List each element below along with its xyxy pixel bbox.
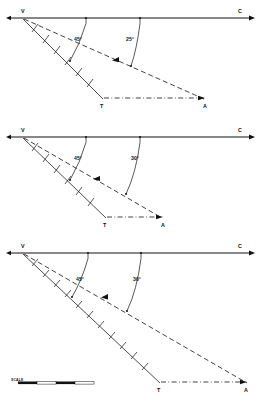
angle-arc-45-1 (70, 24, 86, 62)
dashdot-arrow-a-3 (240, 380, 247, 384)
angle-label-45-3: 45° (76, 276, 84, 282)
dashdot-arrow-a-1 (198, 96, 205, 100)
panel-3: 45° 30° V C T A (6, 243, 255, 393)
arc-endpoint-45-3 (71, 296, 73, 298)
point-label-a-3: A (244, 387, 248, 393)
point-label-c-2: C (238, 127, 242, 133)
baseline-arrow-left-2 (6, 135, 11, 139)
baseline-node-45-1 (85, 17, 87, 19)
dashdot-arrow-a-2 (156, 215, 163, 219)
arc-endpoint-30-3 (126, 310, 128, 312)
scale-label: SCALE (11, 378, 24, 382)
point-label-t-1: T (100, 103, 104, 109)
scale-segment-3 (56, 382, 75, 385)
baseline-node-30-3 (140, 252, 142, 254)
point-label-v-1: V (21, 8, 25, 14)
scale-segment-1 (18, 382, 37, 385)
scale-bar: SCALE (11, 378, 94, 384)
baseline-node-30-2 (139, 136, 141, 138)
point-label-a-1: A (203, 103, 207, 109)
baseline-arrow-right-2 (249, 135, 255, 140)
dashed-line-va-3 (24, 254, 247, 383)
angle-arc-25-1 (131, 24, 140, 67)
point-label-t-2: T (103, 222, 107, 228)
baseline-arrow-left-3 (6, 251, 11, 255)
angle-arc-45-2 (70, 143, 86, 181)
dashed-arrow-mid-1 (112, 57, 119, 62)
point-label-a-2: A (161, 222, 165, 228)
point-label-c-1: C (238, 8, 242, 14)
panel-2: 45° 30° V C T A (6, 127, 255, 228)
baseline-node-45-2 (85, 136, 87, 138)
angle-arc-30-2 (126, 143, 140, 195)
angle-label-25-1: 25° (126, 36, 134, 42)
point-label-c-3: C (238, 243, 242, 249)
solid-line-vt-3 (23, 254, 160, 383)
technical-diagram: 45° 25° V C T A 45° 30° (0, 0, 261, 401)
angle-label-45-2: 45° (74, 155, 82, 161)
baseline-node-25-1 (139, 17, 141, 19)
baseline-arrow-right-3 (249, 251, 255, 256)
dashed-line-va-1 (24, 19, 204, 99)
angle-arc-30-3 (127, 259, 141, 312)
point-label-v-3: V (21, 243, 25, 249)
dashed-line-va-2 (24, 138, 162, 218)
point-label-v-2: V (21, 127, 25, 133)
angle-label-30-2: 30° (131, 155, 139, 161)
angle-label-30-3: 30° (133, 276, 141, 282)
panel-1: 45° 25° V C T A (6, 8, 255, 109)
solid-line-ticks-2 (32, 143, 94, 206)
point-label-t-3: T (157, 387, 161, 393)
baseline-arrow-right-1 (249, 16, 255, 21)
arc-endpoint-30-2 (125, 193, 127, 195)
scale-segment-2 (37, 382, 56, 385)
baseline-node-45-3 (87, 252, 89, 254)
arc-endpoint-45-1 (69, 60, 71, 62)
arc-endpoint-45-2 (69, 179, 71, 181)
dashed-arrow-mid-3 (101, 294, 108, 300)
solid-line-ticks-1 (32, 24, 93, 87)
baseline-arrow-left-1 (6, 16, 11, 20)
solid-line-vt-1 (23, 19, 103, 99)
scale-segment-4 (75, 382, 94, 385)
angle-label-45-1: 45° (74, 36, 82, 42)
solid-line-ticks-3 (32, 259, 148, 370)
